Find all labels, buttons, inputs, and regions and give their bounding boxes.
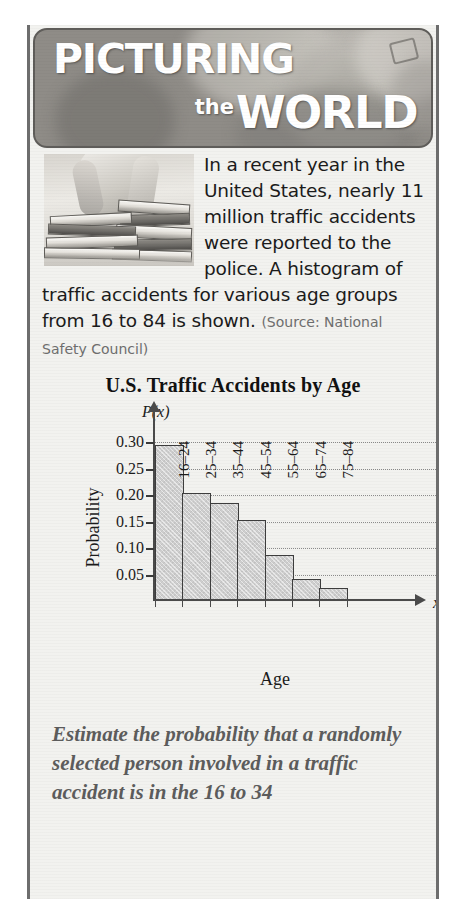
- x-axis-tick-label: 16–24: [176, 441, 193, 479]
- y-axis-tick: [146, 548, 154, 550]
- x-axis-tick-label: 75–84: [340, 441, 357, 479]
- page-root: PICTURING theWORLD: [0, 0, 468, 899]
- y-axis-tick-label: 0.15: [116, 512, 144, 530]
- y-axis-tick: [146, 469, 154, 471]
- banner-title-world: WORLD: [236, 86, 417, 139]
- x-axis-tick: [292, 601, 293, 607]
- y-axis-tick: [146, 522, 154, 524]
- x-axis-tick: [319, 601, 320, 607]
- feature-question: Estimate the probability that a randomly…: [52, 720, 414, 807]
- x-axis-tick-label: 25–34: [203, 441, 220, 479]
- chart-title: U.S. Traffic Accidents by Age: [30, 374, 436, 397]
- x-axis-title: Age: [153, 669, 397, 690]
- y-axis-title: Probability: [83, 458, 104, 598]
- y-axis-tick-label: 0.20: [116, 486, 144, 504]
- histogram-bar: [237, 520, 266, 601]
- histogram-bar: [292, 579, 321, 601]
- x-axis-tick: [237, 601, 238, 607]
- histogram-bar: [210, 503, 239, 601]
- x-axis-tick: [210, 601, 211, 607]
- x-axis-tick-label: 45–54: [258, 441, 275, 479]
- traffic-accidents-histogram: U.S. Traffic Accidents by Age P(x) Proba…: [30, 374, 436, 704]
- x-axis-tick-label: 35–44: [230, 441, 247, 479]
- feature-banner: PICTURING theWORLD: [33, 28, 433, 148]
- histogram-bar: [182, 493, 211, 601]
- x-axis-tick: [182, 601, 183, 607]
- banner-title-the: the: [195, 95, 234, 119]
- x-axis-symbol-label: x: [433, 594, 439, 612]
- y-axis-tick-label: 0.05: [116, 565, 144, 583]
- y-axis-tick-label: 0.10: [116, 539, 144, 557]
- y-axis-arrow-icon: [148, 401, 160, 412]
- y-axis-tick: [146, 442, 154, 444]
- student-with-books-photo: [44, 154, 194, 266]
- x-axis-arrow-icon: [415, 594, 426, 606]
- x-axis-tick: [155, 601, 156, 607]
- x-axis-tick: [265, 601, 266, 607]
- x-axis-tick: [347, 601, 348, 607]
- y-axis-tick-label: 0.30: [116, 433, 144, 451]
- y-axis-tick: [146, 495, 154, 497]
- picturing-the-world-feature-box: PICTURING theWORLD: [27, 25, 439, 899]
- x-axis-line: [153, 599, 415, 601]
- photo-bottom-shadow: [44, 256, 194, 266]
- y-axis-tick: [146, 575, 154, 577]
- banner-title: PICTURING theWORLD: [35, 30, 431, 146]
- x-axis-tick-label: 65–74: [313, 441, 330, 479]
- chart-plot-wrapper: P(x) Probability 0.300.250.200.150.100.0…: [30, 401, 439, 701]
- banner-title-second-line: theWORLD: [53, 84, 421, 146]
- chart-plot-area: 0.300.250.200.150.100.05 x 16–2425–3435–…: [153, 429, 397, 601]
- intro-section: In a recent year in the United States, n…: [42, 152, 424, 362]
- x-axis-tick-label: 55–64: [285, 441, 302, 479]
- histogram-bar: [265, 555, 294, 601]
- banner-title-picturing: PICTURING: [53, 36, 421, 82]
- y-axis-tick-label: 0.25: [116, 459, 144, 477]
